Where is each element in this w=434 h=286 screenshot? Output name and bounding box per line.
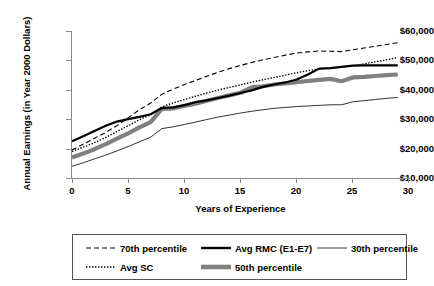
x-tick-label-5: 5 [113, 185, 143, 196]
legend-label-avg-rmc: Avg RMC (E1-E7) [232, 243, 312, 254]
series-line-70th-percentile [72, 43, 398, 150]
legend-item-avg-sc[interactable]: Avg SC [85, 257, 153, 277]
chart-legend: 70th percentile Avg RMC (E1-E7) 30th per… [72, 234, 407, 280]
legend-item-70th-percentile[interactable]: 70th percentile [85, 238, 187, 258]
legend-row-2: Avg SC 50th percentile [73, 257, 406, 277]
x-tick-mark-20 [296, 179, 297, 183]
thin-solid-line-swatch [316, 242, 348, 254]
x-tick-label-10: 10 [169, 185, 199, 196]
plot-area [72, 31, 409, 178]
legend-item-50th-percentile[interactable]: 50th percentile [200, 257, 302, 277]
legend-label-70th-percentile: 70th percentile [117, 243, 187, 254]
x-tick-label-15: 15 [225, 185, 255, 196]
dotted-line-swatch [85, 261, 117, 273]
legend-label-avg-sc: Avg SC [117, 262, 153, 273]
legend-item-avg-rmc[interactable]: Avg RMC (E1-E7) [200, 238, 312, 258]
x-tick-mark-25 [352, 179, 353, 183]
legend-row-1: 70th percentile Avg RMC (E1-E7) 30th per… [73, 238, 406, 258]
x-tick-label-25: 25 [337, 185, 367, 196]
x-tick-mark-15 [240, 179, 241, 183]
thick-solid-line-swatch [200, 242, 232, 254]
x-tick-mark-0 [72, 179, 73, 183]
x-tick-label-0: 0 [57, 185, 87, 196]
chart-figure: Annual Earnings (in Year 2000 Dollars) $… [0, 0, 434, 286]
x-tick-mark-10 [184, 179, 185, 183]
x-tick-mark-5 [128, 179, 129, 183]
very-thick-gray-line-swatch [200, 261, 232, 273]
x-axis-title: Years of Experience [72, 203, 409, 214]
x-tick-label-30: 30 [393, 185, 423, 196]
legend-label-30th-percentile: 30th percentile [348, 243, 418, 254]
x-tick-mark-30 [408, 179, 409, 183]
legend-item-30th-percentile[interactable]: 30th percentile [316, 238, 418, 258]
dashed-line-swatch [85, 242, 117, 254]
legend-label-50th-percentile: 50th percentile [232, 262, 302, 273]
series-line-30th-percentile [72, 97, 398, 166]
data-lines-svg [72, 31, 409, 178]
x-tick-label-20: 20 [281, 185, 311, 196]
y-axis-title: Annual Earnings (in Year 2000 Dollars) [21, 14, 32, 194]
series-line-50th-percentile [72, 75, 398, 158]
